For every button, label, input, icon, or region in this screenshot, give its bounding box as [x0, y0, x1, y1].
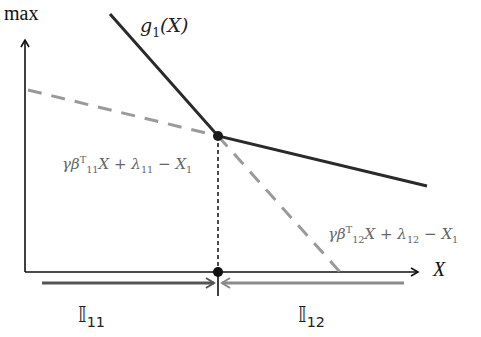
l12-sub: 12	[352, 234, 364, 245]
l11-rest1: X + λ	[99, 155, 141, 173]
l12-rest1: X + λ	[365, 225, 407, 243]
dashed-line-12	[218, 136, 340, 272]
l11-gamma: γβ	[62, 155, 80, 173]
kink-point	[213, 131, 223, 141]
interval-11-label: 𝕀11	[78, 302, 105, 330]
i12-symbol: 𝕀	[298, 302, 307, 327]
l11-sub3: 1	[186, 164, 192, 175]
line-11-label: γβT11X + λ11 − X1	[62, 154, 192, 175]
l12-gamma: γβ	[328, 225, 346, 243]
i11-symbol: 𝕀	[78, 302, 87, 327]
g1-curve-label: g1(X)	[140, 14, 188, 40]
x-axis-label: X	[433, 258, 445, 281]
l12-sub2: 12	[407, 234, 419, 245]
l12-rest2: − X	[419, 225, 452, 243]
y-axis-label: max	[4, 2, 38, 25]
l12-sub3: 1	[452, 234, 458, 245]
g1-sub: 1	[152, 26, 160, 40]
g1-arg: (X)	[160, 14, 188, 36]
l11-sub2: 11	[141, 164, 153, 175]
g1-func: g	[140, 14, 152, 36]
dashed-line-11	[28, 90, 218, 136]
i12-sub: 12	[307, 314, 325, 330]
line-12-label: γβT12X + λ12 − X1	[328, 224, 458, 245]
l11-sub: 11	[86, 164, 98, 175]
l11-rest2: − X	[153, 155, 186, 173]
i11-sub: 11	[87, 314, 105, 330]
interval-12-label: 𝕀12	[298, 302, 325, 330]
